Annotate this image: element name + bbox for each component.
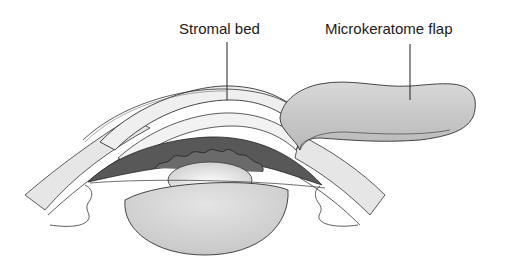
eye-diagram (0, 0, 507, 270)
microkeratome-flap-label: Microkeratome flap (325, 20, 453, 37)
lens (125, 183, 288, 255)
stromal-bed-label: Stromal bed (179, 20, 260, 37)
microkeratome-flap-shape (280, 82, 475, 150)
